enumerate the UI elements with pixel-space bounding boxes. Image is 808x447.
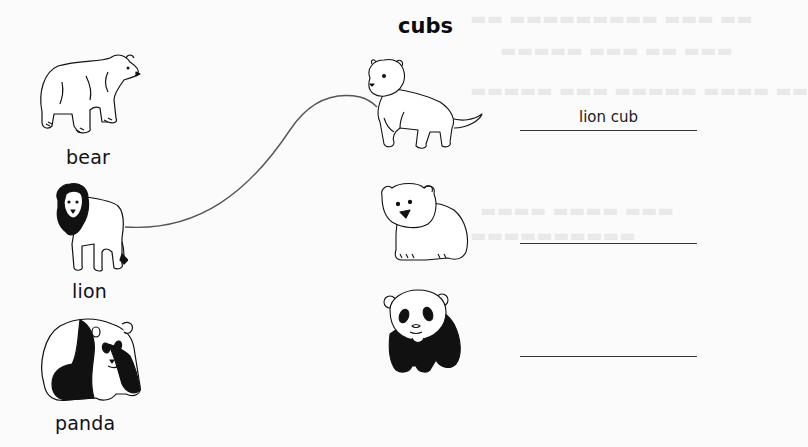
- bleed-through-texture: ▬▬▬ ▬▬▬▬ ▬▬▬▬: [480, 200, 674, 220]
- adult-label-panda: panda: [55, 412, 115, 434]
- bleed-through-texture: ▬▬▬▬▬▬▬▬▬▬: [470, 225, 636, 245]
- cubs-heading: cubs: [398, 14, 453, 38]
- panda-cub-icon[interactable]: [382, 288, 468, 376]
- bleed-through-texture: ▬▬▬ ▬▬ ▬▬▬ ▬▬▬▬▬: [500, 40, 733, 60]
- bleed-through-texture: ▬▬ ▬▬▬▬ ▬▬▬▬▬ ▬▬▬ ▬▬▬▬▬: [470, 80, 808, 100]
- panda-icon[interactable]: [38, 314, 144, 406]
- answer-text-1: lion cub: [520, 108, 697, 126]
- adult-label-lion: lion: [72, 280, 107, 302]
- answer-line-1[interactable]: [520, 130, 697, 131]
- lion-cub-icon[interactable]: [364, 58, 486, 152]
- lion-icon[interactable]: [52, 182, 128, 274]
- polar-bear-icon[interactable]: [38, 52, 142, 136]
- bear-cub-icon[interactable]: [378, 180, 472, 264]
- adult-label-bear: bear: [66, 146, 110, 168]
- answer-line-2[interactable]: [520, 243, 697, 244]
- bleed-through-texture: ▬▬ ▬▬▬ ▬▬▬▬▬▬▬▬▬ ▬▬: [470, 8, 753, 28]
- answer-line-3[interactable]: [520, 356, 697, 357]
